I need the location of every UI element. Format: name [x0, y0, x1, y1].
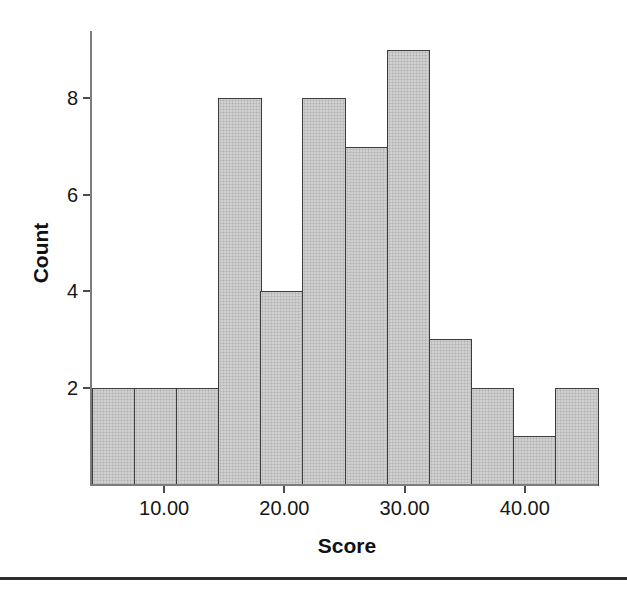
x-tick-label-40.00: 40.00 — [485, 498, 565, 518]
x-axis-title: Score — [287, 533, 407, 559]
y-tick-2 — [83, 387, 90, 389]
histogram-bar-1 — [92, 388, 136, 486]
y-axis-title: Count — [28, 193, 54, 313]
y-tick-6 — [83, 194, 90, 196]
y-axis-line — [90, 31, 92, 484]
histogram-bar-11 — [513, 436, 557, 486]
x-tick-40.00 — [524, 486, 526, 493]
x-tick-20.00 — [283, 486, 285, 493]
x-axis-line — [90, 484, 598, 486]
x-tick-30.00 — [404, 486, 406, 493]
histogram-bar-12 — [555, 388, 599, 486]
y-tick-label-8: 8 — [38, 88, 78, 108]
x-tick-label-20.00: 20.00 — [244, 498, 324, 518]
x-tick-10.00 — [163, 486, 165, 493]
y-tick-4 — [83, 290, 90, 292]
histogram-bar-7 — [345, 147, 389, 486]
histogram-bar-5 — [260, 291, 304, 485]
histogram-bar-2 — [134, 388, 178, 486]
histogram-bar-8 — [387, 50, 431, 485]
histogram-bar-4 — [218, 98, 262, 485]
histogram-bar-6 — [302, 98, 346, 485]
histogram-bar-9 — [429, 339, 473, 485]
scanned-figure-page: 2468 10.0020.0030.0040.00 Count Score — [0, 0, 627, 590]
page-divider-line — [0, 577, 627, 580]
histogram-chart: 2468 10.0020.0030.0040.00 Count Score — [0, 0, 627, 590]
y-tick-8 — [83, 97, 90, 99]
x-tick-label-10.00: 10.00 — [124, 498, 204, 518]
y-tick-label-2: 2 — [38, 378, 78, 398]
histogram-bar-3 — [176, 388, 220, 486]
histogram-bar-10 — [471, 388, 515, 486]
x-tick-label-30.00: 30.00 — [365, 498, 445, 518]
